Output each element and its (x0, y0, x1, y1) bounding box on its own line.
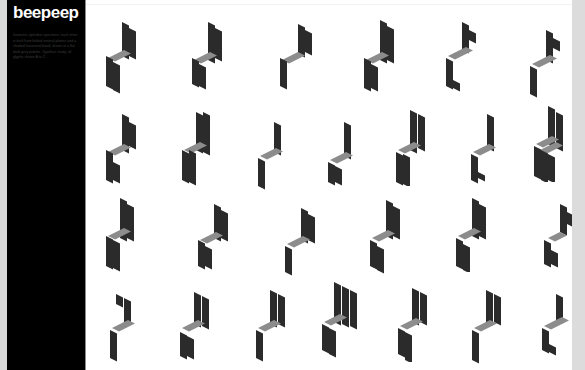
glyph-l-icon[interactable] (465, 112, 505, 188)
divider (86, 4, 572, 5)
glyph-r-icon[interactable] (452, 196, 492, 272)
glyph-i-icon[interactable] (252, 116, 292, 192)
glyph-p-icon[interactable] (281, 202, 321, 278)
left-window-edge (0, 0, 7, 370)
glyph-t-icon[interactable] (106, 288, 146, 364)
scrollbar-track[interactable] (572, 0, 585, 370)
glyph-y-icon[interactable] (468, 288, 508, 364)
sidebar-description: Isometric alphabet specimen: each letter… (13, 33, 81, 61)
glyph-grid (86, 0, 572, 370)
sidebar: beepeep Isometric alphabet specimen: eac… (7, 0, 86, 370)
glyph-w-icon[interactable] (320, 282, 360, 358)
site-logo[interactable]: beepeep (13, 3, 78, 23)
glyph-g-icon[interactable] (102, 112, 142, 188)
glyph-j-icon[interactable] (322, 118, 362, 194)
glyph-k-icon[interactable] (392, 110, 432, 186)
glyph-b-icon[interactable] (186, 18, 226, 94)
glyph-d-icon[interactable] (360, 18, 400, 94)
glyph-n-icon[interactable] (102, 196, 142, 272)
glyph-x-icon[interactable] (394, 286, 434, 362)
glyph-q-icon[interactable] (366, 198, 406, 274)
glyph-c-icon[interactable] (276, 18, 316, 94)
glyph-a-icon[interactable] (102, 18, 142, 94)
glyph-h-icon[interactable] (178, 110, 218, 186)
glyph-m-icon[interactable] (532, 106, 572, 182)
glyph-u-icon[interactable] (176, 288, 216, 364)
glyph-o-icon[interactable] (194, 200, 234, 276)
glyph-v-icon[interactable] (252, 288, 292, 364)
glyph-e-icon[interactable] (442, 18, 482, 94)
glyph-f-icon[interactable] (526, 22, 566, 98)
